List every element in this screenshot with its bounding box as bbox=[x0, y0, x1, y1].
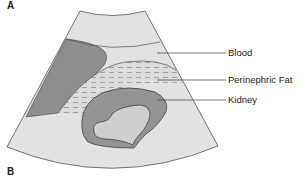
ultrasound-diagram bbox=[0, 0, 301, 176]
label-kidney: Kidney bbox=[228, 95, 257, 105]
panel-label-a: A bbox=[7, 0, 14, 11]
label-blood: Blood bbox=[228, 48, 252, 58]
label-perinephric-fat: Perinephric Fat bbox=[228, 75, 292, 85]
panel-label-b: B bbox=[7, 166, 14, 176]
